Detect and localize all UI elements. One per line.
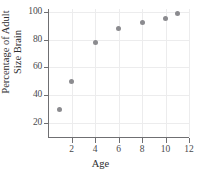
x-tick-mark [72, 138, 73, 143]
gridline-horizontal [48, 67, 189, 68]
scatter-chart-figure: 20406080100 24681012 Percentage of Adult… [0, 0, 201, 177]
x-tick-mark [166, 138, 167, 143]
data-point [57, 107, 62, 112]
gridline-horizontal [48, 12, 189, 13]
x-tick-mark [142, 138, 143, 143]
gridline-horizontal [48, 40, 189, 41]
y-tick-label: 20 [18, 117, 42, 127]
x-axis-title: Age [0, 158, 201, 169]
gridline-vertical [72, 9, 73, 137]
x-tick-mark [189, 138, 190, 143]
x-tick-label: 10 [157, 144, 175, 154]
gridline-vertical [166, 9, 167, 137]
gridline-horizontal [48, 95, 189, 96]
y-tick-mark [44, 67, 49, 68]
y-axis-line [48, 9, 49, 138]
gridline-vertical [95, 9, 96, 137]
gridline-horizontal [48, 123, 189, 124]
gridline-vertical [142, 9, 143, 137]
y-tick-mark [44, 123, 49, 124]
x-tick-mark [119, 138, 120, 143]
y-axis-title-line-1: Percentage of Adult [0, 0, 12, 112]
y-tick-mark [44, 12, 49, 13]
gridline-vertical [189, 9, 190, 137]
y-tick-mark [44, 95, 49, 96]
x-tick-mark [95, 138, 96, 143]
data-point [175, 11, 180, 16]
x-tick-label: 2 [63, 144, 81, 154]
data-point [93, 40, 98, 45]
data-point [140, 20, 145, 25]
y-axis-title: Percentage of Adult Size Brain [0, 0, 28, 112]
y-axis-title-line-2: Size Brain [12, 0, 24, 112]
y-tick-mark [44, 40, 49, 41]
x-tick-label: 6 [110, 144, 128, 154]
x-tick-label: 12 [180, 144, 198, 154]
x-tick-label: 4 [86, 144, 104, 154]
data-point [69, 79, 74, 84]
x-tick-label: 8 [133, 144, 151, 154]
data-point [116, 26, 121, 31]
